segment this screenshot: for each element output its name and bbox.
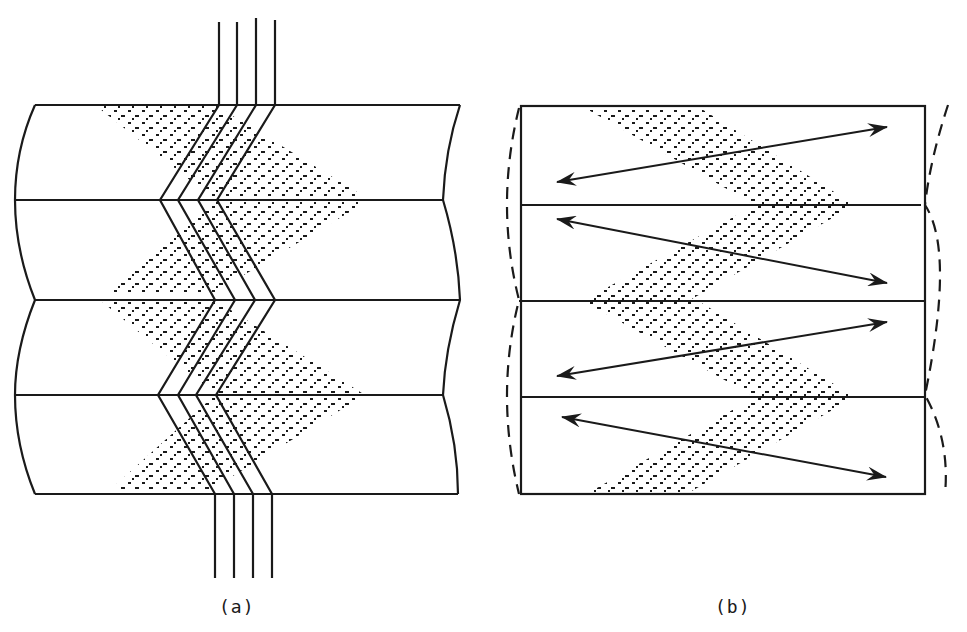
panel-b-label: (b) bbox=[715, 596, 751, 617]
figure-canvas bbox=[0, 0, 967, 632]
panel-b bbox=[507, 105, 948, 494]
panel-a bbox=[15, 18, 460, 578]
panel-a-label: (a) bbox=[219, 596, 255, 617]
